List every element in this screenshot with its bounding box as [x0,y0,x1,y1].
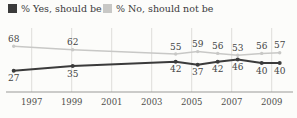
value-label-no: 62 [67,37,78,47]
value-label-no: 59 [192,39,204,49]
x-tick-label-2009: 2009 [261,97,283,107]
data-point-yes [174,60,178,64]
value-label-no: 68 [8,34,20,44]
data-point-yes [260,61,264,65]
data-point-no [71,48,74,51]
value-label-no: 53 [232,43,244,53]
x-tick-label-1997: 1997 [21,97,43,107]
value-label-no: 56 [212,41,224,51]
data-point-no [12,45,15,48]
value-label-yes: 40 [256,66,268,76]
value-label-yes: 42 [212,64,223,74]
plot-area: 1997199920012003200520072009686255595653… [0,0,297,118]
survey-line-chart: % Yes, should be % No, should not be 199… [0,0,297,118]
data-point-no [174,52,177,55]
value-label-yes: 35 [67,69,79,79]
data-point-no [216,52,219,55]
data-point-no [236,54,239,57]
data-point-yes [12,69,16,73]
data-point-yes [196,63,200,67]
data-point-yes [278,61,282,65]
data-point-yes [71,64,75,68]
value-label-yes: 27 [8,73,20,83]
data-point-no [260,52,263,55]
data-point-yes [236,57,240,61]
x-tick-label-2003: 2003 [141,97,163,107]
value-label-no: 57 [274,40,286,50]
data-point-no [278,51,281,54]
value-label-no: 55 [170,42,182,52]
data-point-yes [216,60,220,64]
value-label-yes: 42 [170,64,181,74]
x-tick-label-2005: 2005 [181,97,203,107]
value-label-yes: 46 [232,62,244,72]
x-tick-label-2001: 2001 [101,97,123,107]
data-point-no [196,50,199,53]
x-tick-label-1999: 1999 [61,97,83,107]
x-tick-label-2007: 2007 [221,97,243,107]
value-label-no: 56 [256,41,268,51]
value-label-yes: 40 [274,66,286,76]
value-label-yes: 37 [192,67,204,77]
